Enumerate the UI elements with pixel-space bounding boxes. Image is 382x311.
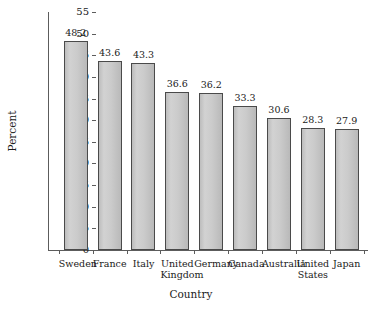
bar-chart: Percent 051015202530354045505548.243.643… (0, 0, 382, 311)
x-axis-tick-mark (127, 250, 128, 254)
x-axis-tick-label: United States (296, 258, 330, 280)
bar-group[interactable]: 30.6 (267, 12, 291, 250)
y-axis-title: Percent (6, 96, 18, 166)
bar-group[interactable]: 36.2 (199, 12, 223, 250)
bar-group[interactable]: 28.3 (301, 12, 325, 250)
x-axis-tick-mark (194, 250, 195, 254)
x-axis-tick-label: Italy (127, 258, 161, 269)
bar[interactable] (233, 106, 257, 250)
x-axis-tick-mark (330, 250, 331, 254)
y-axis-tick-mark (92, 120, 96, 121)
x-axis-tick-mark (262, 250, 263, 254)
y-axis-tick-mark (92, 163, 96, 164)
x-axis-tick-label: Australia (262, 258, 296, 269)
bar[interactable] (165, 92, 189, 250)
y-axis-tick-mark (92, 55, 96, 56)
x-axis-tick-mark (296, 250, 297, 254)
x-axis-title: Country (0, 288, 382, 300)
bar-group[interactable]: 33.3 (233, 12, 257, 250)
x-axis-tick-mark (364, 250, 365, 254)
bar[interactable] (131, 63, 155, 250)
y-axis-tick-mark (92, 34, 96, 35)
bar-value-label: 28.3 (302, 115, 323, 125)
y-axis-tick-mark (92, 142, 96, 143)
bar-value-label: 36.6 (167, 79, 188, 89)
y-axis-tick-mark (92, 12, 96, 13)
bar-value-label: 43.6 (99, 48, 120, 58)
bar-value-label: 36.2 (201, 80, 222, 90)
x-axis-tick-label: Germany (194, 258, 228, 269)
x-axis-tick-label: United Kingdom (160, 258, 194, 280)
x-axis-tick-label: France (93, 258, 127, 269)
x-axis-line (48, 250, 368, 251)
x-axis-tick-label: Japan (330, 258, 364, 269)
bar-group[interactable]: 27.9 (335, 12, 359, 250)
x-axis-tick-mark (59, 250, 60, 254)
y-axis-tick-mark (92, 185, 96, 186)
bar-value-label: 43.3 (133, 50, 154, 60)
plot-area: 051015202530354045505548.243.643.336.636… (48, 12, 368, 250)
bar-value-label: 27.9 (336, 116, 357, 126)
y-axis-tick-mark (92, 228, 96, 229)
bar-group[interactable]: 43.3 (131, 12, 155, 250)
bar[interactable] (267, 118, 291, 250)
x-axis-tick-mark (93, 250, 94, 254)
bar-value-label: 48.2 (65, 28, 86, 38)
y-axis-tick-mark (92, 207, 96, 208)
bar-group[interactable]: 48.2 (64, 12, 88, 250)
y-axis-tick-mark (92, 99, 96, 100)
bar[interactable] (64, 41, 88, 250)
y-axis-tick-mark (92, 77, 96, 78)
x-axis-tick-mark (228, 250, 229, 254)
bar[interactable] (301, 128, 325, 250)
bar-group[interactable]: 43.6 (98, 12, 122, 250)
bar-value-label: 33.3 (235, 93, 256, 103)
bar-value-label: 30.6 (268, 105, 289, 115)
bar[interactable] (335, 129, 359, 250)
bar[interactable] (98, 61, 122, 250)
x-axis-tick-label: Sweden (59, 258, 93, 269)
x-axis-tick-mark (160, 250, 161, 254)
bar-group[interactable]: 36.6 (165, 12, 189, 250)
bar[interactable] (199, 93, 223, 250)
x-axis-tick-label: Canada (228, 258, 262, 269)
